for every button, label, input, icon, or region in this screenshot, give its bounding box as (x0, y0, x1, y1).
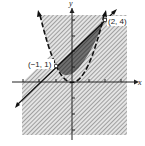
parabola-arrow-left (37, 10, 42, 17)
inequality-graph: (−1, 1) (2, 4) y x (0, 0, 145, 146)
y-axis-label: y (68, 0, 73, 8)
parabola-arrow-right (102, 10, 107, 17)
point-label-neg1-1: (−1, 1) (28, 60, 52, 69)
point-2-4 (103, 18, 107, 22)
point-neg1-1 (54, 64, 58, 68)
x-axis-label: x (137, 78, 142, 87)
point-label-2-4: (2, 4) (108, 17, 127, 26)
